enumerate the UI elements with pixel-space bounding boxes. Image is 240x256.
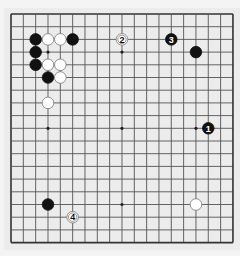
white-stone-move-4[interactable]: 4 bbox=[67, 211, 79, 223]
black-stone[interactable] bbox=[30, 46, 42, 58]
white-stone[interactable] bbox=[190, 199, 202, 211]
black-stone-icon bbox=[190, 46, 202, 58]
white-stone[interactable] bbox=[55, 59, 67, 71]
black-stone[interactable] bbox=[190, 46, 202, 58]
black-stone[interactable] bbox=[30, 34, 42, 46]
black-stone-move-1[interactable]: 1 bbox=[202, 123, 214, 135]
white-stone-icon bbox=[42, 59, 54, 71]
black-stone-icon bbox=[42, 199, 54, 211]
black-stone-move-3[interactable]: 3 bbox=[165, 34, 177, 46]
black-stone[interactable] bbox=[67, 34, 79, 46]
black-stone[interactable] bbox=[30, 59, 42, 71]
move-number: 2 bbox=[119, 35, 124, 45]
star-point bbox=[120, 203, 123, 206]
star-point bbox=[46, 51, 49, 54]
star-point bbox=[194, 127, 197, 130]
white-stone-move-2[interactable]: 2 bbox=[116, 34, 128, 46]
black-stone[interactable] bbox=[42, 199, 54, 211]
move-number: 1 bbox=[206, 124, 211, 134]
white-stone-icon bbox=[42, 97, 54, 109]
white-stone-icon bbox=[55, 34, 67, 46]
black-stone-icon bbox=[42, 72, 54, 84]
move-number: 3 bbox=[169, 35, 174, 45]
star-point bbox=[120, 127, 123, 130]
go-board[interactable]: 2314 bbox=[0, 0, 240, 256]
white-stone[interactable] bbox=[42, 59, 54, 71]
white-stone-icon bbox=[55, 72, 67, 84]
move-number: 4 bbox=[70, 212, 75, 222]
white-stone[interactable] bbox=[55, 72, 67, 84]
white-stone-icon bbox=[42, 34, 54, 46]
black-stone-icon bbox=[67, 34, 79, 46]
black-stone-icon bbox=[30, 34, 42, 46]
star-point bbox=[120, 51, 123, 54]
white-stone-icon bbox=[190, 199, 202, 211]
black-stone-icon bbox=[30, 46, 42, 58]
star-point bbox=[46, 127, 49, 130]
white-stone-icon bbox=[55, 59, 67, 71]
white-stone[interactable] bbox=[42, 97, 54, 109]
white-stone[interactable] bbox=[42, 34, 54, 46]
black-stone[interactable] bbox=[42, 72, 54, 84]
black-stone-icon bbox=[30, 59, 42, 71]
white-stone[interactable] bbox=[55, 34, 67, 46]
